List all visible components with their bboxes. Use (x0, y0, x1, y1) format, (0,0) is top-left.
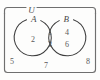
venn-diagram-canvas: U A B 2 1 3 4 6 5 7 8 (0, 0, 100, 80)
set-b-arc (49, 20, 86, 56)
set-a-label: A (30, 14, 37, 24)
element-intersection-1: 1 (48, 28, 52, 37)
set-b-circle (49, 20, 86, 56)
element-intersection-3: 3 (48, 40, 52, 49)
venn-diagram-figure: U A B 2 1 3 4 6 5 7 8 (0, 0, 100, 80)
element-outside-7: 7 (44, 61, 48, 70)
set-b-label: B (63, 14, 69, 24)
element-a-only-2: 2 (31, 35, 35, 44)
universe-frame-topleft (5, 8, 27, 15)
element-b-only-4: 4 (65, 28, 69, 37)
element-b-only-6: 6 (65, 40, 69, 49)
element-outside-5: 5 (10, 57, 14, 66)
element-outside-8: 8 (86, 57, 90, 66)
